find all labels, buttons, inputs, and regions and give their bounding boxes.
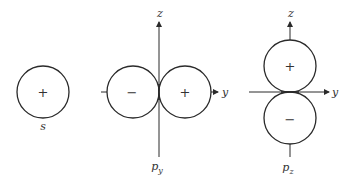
pz-orbital: z y + − pz bbox=[249, 7, 339, 176]
py-z-axis-label: z bbox=[156, 7, 163, 20]
s-lobe-sign: + bbox=[38, 85, 49, 100]
py-left-lobe-sign: − bbox=[127, 85, 138, 100]
py-orbital: z y − + py bbox=[101, 7, 229, 175]
py-right-lobe-sign: + bbox=[180, 85, 191, 100]
pz-orbital-label: pz bbox=[282, 161, 294, 176]
s-orbital: + s bbox=[17, 66, 69, 133]
pz-bottom-lobe-sign: − bbox=[285, 112, 296, 127]
py-y-axis-label: y bbox=[221, 86, 229, 99]
pz-top-lobe-sign: + bbox=[285, 59, 296, 74]
s-orbital-label: s bbox=[40, 120, 46, 133]
orbital-diagram: + s z y − + py z y + − pz bbox=[0, 0, 351, 183]
pz-y-axis-label: y bbox=[331, 86, 339, 99]
pz-z-axis-label: z bbox=[287, 7, 294, 20]
py-orbital-label: py bbox=[151, 160, 163, 175]
